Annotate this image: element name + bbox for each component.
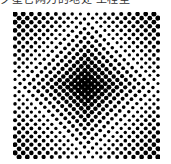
op-art-checkerboard: [13, 12, 160, 159]
caption-text: 夕星它网刀的地处 工程型: [0, 0, 171, 6]
checkerboard-graphic: [13, 12, 160, 159]
